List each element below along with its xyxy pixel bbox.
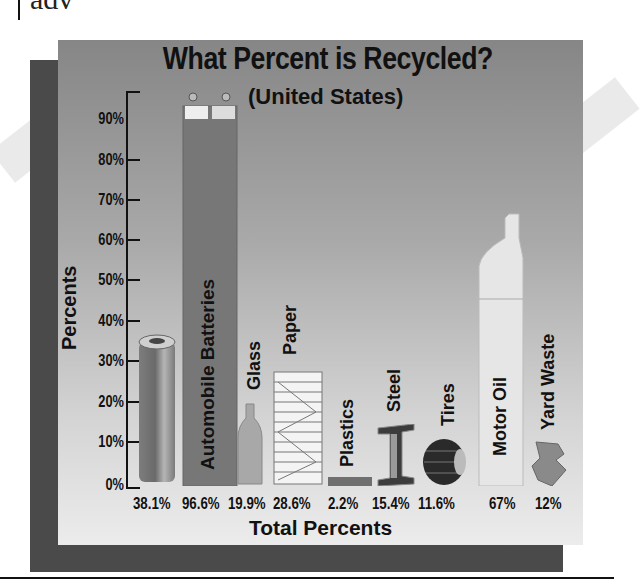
bar-label: Plastics — [337, 399, 358, 467]
glass-bottle-icon — [237, 403, 263, 486]
aluminum-can-icon — [137, 330, 177, 486]
y-tick-label: 40% — [87, 312, 124, 330]
value-label: 12% — [535, 494, 562, 514]
leaves-icon — [528, 440, 568, 486]
text-cursor-bar — [18, 0, 20, 20]
y-tick-label: 70% — [87, 191, 124, 209]
value-label: 38.1% — [133, 494, 171, 514]
steel-beam-icon — [376, 424, 416, 486]
y-tick-label: 20% — [87, 393, 124, 411]
y-axis-title: Percents — [58, 266, 81, 351]
y-tick — [126, 91, 140, 93]
bar-label: Paper — [280, 305, 301, 355]
y-tick-label: 80% — [87, 151, 124, 169]
value-label: 11.6% — [418, 494, 455, 514]
value-label: 96.6% — [182, 494, 220, 514]
y-tick-label: 30% — [87, 352, 124, 370]
y-tick — [126, 279, 140, 281]
y-axis — [126, 91, 128, 489]
value-label: 28.6% — [273, 494, 311, 514]
y-tick — [126, 487, 140, 489]
page-rule — [0, 577, 614, 579]
bar-label: Steel — [384, 369, 405, 412]
bar-label: Yard Waste — [538, 334, 559, 430]
chart-title: What Percent is Recycled? — [102, 41, 553, 77]
y-tick-label: 10% — [87, 433, 124, 451]
value-label: 67% — [489, 494, 516, 514]
tire-icon — [422, 437, 470, 486]
x-axis-title: Total Percents — [58, 516, 583, 540]
y-tick-label: 90% — [87, 110, 124, 128]
y-tick — [126, 159, 140, 161]
plastic-bar-icon — [328, 477, 372, 486]
bar-label: Motor Oil — [490, 377, 511, 456]
y-tick — [126, 320, 140, 322]
y-tick-label: 0% — [87, 476, 124, 494]
cropped-heading-fragment: adv — [30, 0, 73, 16]
bar-label: Automobile Batteries — [197, 279, 219, 470]
y-tick — [126, 239, 140, 241]
y-tick-label: 60% — [87, 231, 124, 249]
y-tick — [126, 199, 140, 201]
paper-stack-icon — [272, 368, 324, 486]
bar-label: Tires — [438, 383, 459, 426]
value-label: 2.2% — [328, 494, 358, 514]
value-label: 15.4% — [372, 494, 410, 514]
bar-label: Glass — [244, 341, 265, 390]
y-tick-label: 50% — [87, 271, 124, 289]
chart-subtitle: (United States) — [248, 84, 403, 110]
value-label: 19.9% — [228, 494, 266, 514]
